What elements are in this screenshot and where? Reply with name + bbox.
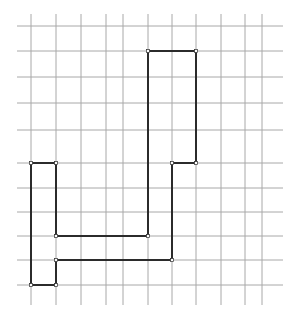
grid-polygon-figure: [0, 0, 298, 314]
polygon-vertex-5: [55, 259, 58, 262]
polygon-vertex-0: [147, 50, 150, 53]
polygon-vertex-1: [195, 50, 198, 53]
polygon-vertex-6: [55, 284, 58, 287]
polygon-vertex-10: [55, 235, 58, 238]
polygon-vertex-7: [30, 284, 33, 287]
polygon-vertex-4: [171, 259, 174, 262]
polygon-vertex-11: [147, 235, 150, 238]
polygon-vertex-9: [55, 162, 58, 165]
polygon-vertex-3: [171, 162, 174, 165]
figure-canvas: [0, 0, 298, 314]
polygon-vertex-2: [195, 162, 198, 165]
polygon-vertex-8: [30, 162, 33, 165]
